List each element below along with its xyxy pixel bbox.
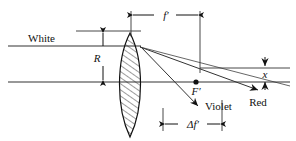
- lateral-chromatic-label: x: [262, 68, 268, 80]
- focal-point-label: F′: [190, 85, 201, 97]
- white-ray-label: White: [28, 32, 55, 44]
- diagram-background: [0, 0, 296, 141]
- focal-point-dot: [193, 79, 198, 84]
- chromatic-aberration-diagram: f′ R White F′ Violet Red: [0, 0, 296, 141]
- axial-chromatic-label: Δf′: [186, 118, 200, 130]
- red-ray-label: Red: [249, 96, 267, 108]
- focal-length-label: f′: [163, 9, 169, 21]
- violet-ray-label: Violet: [205, 100, 232, 112]
- radius-label: R: [93, 52, 101, 64]
- optics-diagram-figure: f′ R White F′ Violet Red: [0, 0, 296, 141]
